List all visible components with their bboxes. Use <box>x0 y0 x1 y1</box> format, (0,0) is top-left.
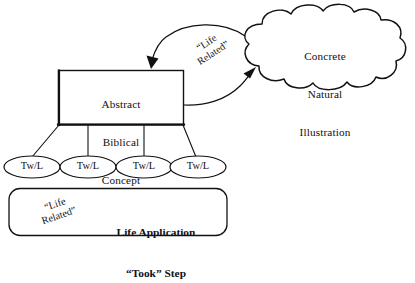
concept-box-line-1: Abstract <box>58 98 184 111</box>
cloud-line-2: Natural <box>255 88 395 101</box>
application-box-line-1: Life Application <box>96 226 216 240</box>
connector-node-4 <box>183 125 196 157</box>
cloud-line-3: Illustration <box>255 126 395 139</box>
cloud-label: Concrete Natural Illustration <box>255 24 395 164</box>
node-label-1: Tw/L <box>4 160 60 171</box>
node-label-3: Tw/L <box>116 160 172 171</box>
node-label-2: Tw/L <box>60 160 116 171</box>
cloud-line-1: Concrete <box>255 50 395 63</box>
concept-box-line-3: Concept <box>58 174 184 187</box>
node-label-4: Tw/L <box>170 160 226 171</box>
application-box-label: Life Application “Took” Step <box>96 199 216 283</box>
concept-box-line-2: Biblical <box>58 136 184 149</box>
application-box-line-2: “Took” Step <box>96 267 216 281</box>
arrow-head-to-concept <box>147 56 159 70</box>
connector-node-1 <box>32 125 59 157</box>
arrow-concept-to-cloud <box>184 74 250 105</box>
